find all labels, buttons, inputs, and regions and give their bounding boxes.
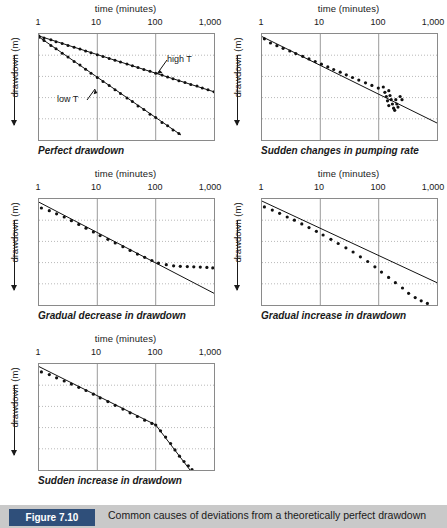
- data-points-measured: [40, 370, 194, 470]
- x-tick-100: 100: [147, 182, 162, 192]
- x-axis-title: time (minutes): [38, 168, 213, 179]
- annotation-low-t: low T: [57, 94, 78, 104]
- y-axis-arrow-icon: [14, 55, 15, 125]
- x-tick-10: 10: [91, 17, 101, 27]
- panel-caption: Sudden changes in pumping rate: [261, 145, 447, 156]
- x-tick-10: 10: [314, 17, 324, 27]
- horizontal-gridlines: [39, 220, 214, 284]
- vertical-gridlines: [320, 34, 378, 140]
- y-axis-arrow-icon: [237, 220, 238, 290]
- vertical-gridlines: [320, 199, 378, 305]
- plot-svg: [262, 199, 437, 305]
- panel-caption: Perfect drawdown: [38, 145, 228, 156]
- annotation-high-t: high T: [167, 54, 192, 64]
- x-tick-1: 1: [35, 182, 40, 192]
- reference-line: [262, 37, 437, 123]
- white-separator: [0, 497, 447, 505]
- vertical-gridlines: [97, 199, 155, 305]
- x-tick-1000: 1,000: [199, 182, 222, 192]
- x-tick-1000: 1,000: [422, 182, 445, 192]
- plot-svg: [262, 34, 437, 140]
- figure-caption-text: Common causes of deviations from a theor…: [108, 509, 440, 522]
- x-tick-10: 10: [314, 182, 324, 192]
- horizontal-gridlines: [262, 55, 437, 119]
- x-axis-title: time (minutes): [261, 3, 436, 14]
- x-axis-ticks: 1 10 100 1,000: [0, 347, 223, 359]
- plot-area-sudden-changes: [261, 33, 438, 141]
- x-tick-100: 100: [370, 17, 385, 27]
- y-axis-arrow-icon: [237, 55, 238, 125]
- panel-sudden-increase: time (minutes) 1 10 100 1,000 drawdown (…: [0, 330, 223, 495]
- x-tick-10: 10: [91, 182, 101, 192]
- x-axis-title: time (minutes): [261, 168, 436, 179]
- data-points-measured: [263, 205, 429, 305]
- panel-perfect-drawdown: time (minutes) 1 10 100 1,000 drawdown (…: [0, 0, 223, 165]
- x-axis-title: time (minutes): [38, 333, 213, 344]
- x-tick-1000: 1,000: [199, 17, 222, 27]
- x-axis-ticks: 1 10 100 1,000: [0, 182, 223, 194]
- y-axis-arrow-icon: [14, 385, 15, 455]
- x-tick-1: 1: [35, 17, 40, 27]
- plot-svg: [39, 34, 214, 140]
- x-tick-100: 100: [370, 182, 385, 192]
- y-axis-arrow-icon: [14, 220, 15, 290]
- x-axis-title: time (minutes): [38, 3, 213, 14]
- panel-caption: Sudden increase in drawdown: [38, 475, 228, 486]
- x-axis-ticks: 1 10 100 1,000: [223, 182, 446, 194]
- x-tick-1: 1: [258, 182, 263, 192]
- x-tick-1: 1: [35, 347, 40, 357]
- reference-line: [262, 201, 437, 283]
- plot-area-gradual-decrease: [38, 198, 215, 306]
- plot-area-gradual-increase: [261, 198, 438, 306]
- plot-svg: [39, 364, 214, 470]
- figure-panel-grid: time (minutes) 1 10 100 1,000 drawdown (…: [0, 0, 447, 497]
- plot-area-sudden-increase: [38, 363, 215, 471]
- plot-area-perfect-drawdown: high T low T: [38, 33, 215, 141]
- x-tick-100: 100: [147, 17, 162, 27]
- horizontal-gridlines: [262, 220, 437, 284]
- data-points-measured: [263, 37, 404, 112]
- x-axis-ticks: 1 10 100 1,000: [0, 17, 223, 29]
- x-tick-100: 100: [147, 347, 162, 357]
- x-axis-ticks: 1 10 100 1,000: [223, 17, 446, 29]
- panel-caption: Gradual increase in drawdown: [261, 310, 447, 321]
- panel-gradual-decrease: time (minutes) 1 10 100 1,000 drawdown (…: [0, 165, 223, 330]
- arrowhead-high-t: [157, 70, 162, 74]
- panel-caption: Gradual decrease in drawdown: [38, 310, 228, 321]
- x-tick-1000: 1,000: [422, 17, 445, 27]
- figure-caption-band: Figure 7.10 Common causes of deviations …: [0, 505, 447, 528]
- horizontal-gridlines: [39, 385, 214, 449]
- figure-number-badge: Figure 7.10: [9, 509, 95, 526]
- x-tick-1000: 1,000: [199, 347, 222, 357]
- x-tick-1: 1: [258, 17, 263, 27]
- trend-line-with-break: [39, 367, 190, 470]
- panel-gradual-increase: time (minutes) 1 10 100 1,000 drawdown (…: [223, 165, 446, 330]
- plot-svg: [39, 199, 214, 305]
- x-tick-10: 10: [91, 347, 101, 357]
- panel-sudden-changes-pumping-rate: time (minutes) 1 10 100 1,000 drawdown (…: [223, 0, 446, 165]
- leader-line-low-t: [87, 89, 95, 100]
- vertical-gridlines: [97, 364, 155, 470]
- vertical-gridlines: [97, 34, 155, 140]
